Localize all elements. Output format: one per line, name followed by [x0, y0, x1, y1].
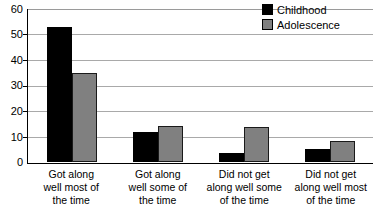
bar-groups — [29, 9, 373, 162]
legend-swatch-adolescence — [262, 19, 273, 30]
bar-childhood-1 — [47, 27, 72, 162]
bar-childhood-2 — [133, 132, 158, 162]
y-tick-label-0: 0 — [17, 157, 23, 168]
bar-adolescence-3 — [244, 127, 269, 162]
y-tick-label-40: 40 — [11, 55, 23, 66]
legend-swatch-childhood — [262, 4, 273, 15]
chart-legend: Childhood Adolescence — [262, 3, 378, 31]
legend-item-adolescence: Adolescence — [262, 18, 378, 31]
legend-item-childhood: Childhood — [262, 3, 378, 16]
bar-adolescence-1 — [72, 73, 97, 162]
bar-group-3 — [201, 9, 287, 162]
x-axis-label-4: Did not getalong well mostof the time — [288, 168, 375, 207]
bar-adolescence-4 — [330, 141, 355, 162]
bar-group-4 — [287, 9, 373, 162]
plot-area — [27, 9, 373, 164]
bar-chart: Childhood Adolescence 60 50 40 30 20 10 … — [0, 0, 381, 213]
y-tick-label-10: 10 — [11, 132, 23, 143]
bar-group-2 — [115, 9, 201, 162]
y-tick-label-60: 60 — [11, 4, 23, 15]
bar-childhood-3 — [219, 153, 244, 162]
x-axis-label-3: Did not getalong well someof the time — [201, 168, 288, 207]
y-tick-label-20: 20 — [11, 106, 23, 117]
legend-label-adolescence: Adolescence — [277, 19, 340, 31]
x-axis-label-1: Got alongwell most ofthe time — [28, 168, 115, 207]
y-tick-label-30: 30 — [11, 80, 23, 91]
bar-childhood-4 — [305, 149, 330, 162]
plot-area-wrapper — [27, 9, 373, 164]
y-axis: 60 50 40 30 20 10 0 — [0, 0, 27, 173]
bar-group-1 — [29, 9, 115, 162]
legend-label-childhood: Childhood — [277, 4, 327, 16]
bar-adolescence-2 — [158, 126, 183, 162]
y-tick-label-50: 50 — [11, 29, 23, 40]
x-axis-label-2: Got alongwell some ofthe time — [115, 168, 202, 207]
x-axis-labels: Got alongwell most ofthe time Got alongw… — [28, 168, 374, 207]
